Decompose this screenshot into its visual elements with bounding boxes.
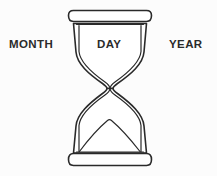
label-month: MONTH: [9, 39, 53, 51]
hourglass-top-cap: [69, 11, 152, 22]
label-day: DAY: [97, 39, 121, 51]
hourglass-figure: [0, 0, 217, 176]
illustration-canvas: MONTH DAY YEAR: [0, 0, 217, 176]
label-year: YEAR: [169, 39, 203, 51]
hourglass-bottom-cap: [69, 154, 152, 166]
hourglass-upper-bulb: [74, 24, 147, 89]
hourglass-lower-bulb: [74, 89, 147, 154]
